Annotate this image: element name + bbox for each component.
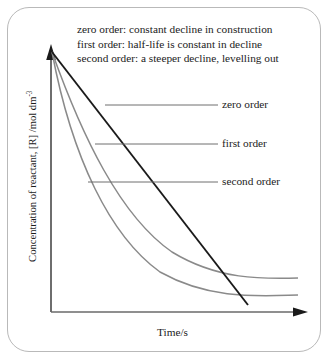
x-axis-arrow-icon xyxy=(293,307,308,316)
y-axis-label: Concentration of reactant, [R] /mol dm-3 xyxy=(26,76,39,276)
annotation-block: zero order: constant decline in construc… xyxy=(77,22,317,66)
x-axis-label: Time/s xyxy=(157,326,188,338)
annotation-second-order: second order: a steeper decline, levelli… xyxy=(77,51,317,66)
series-line-zero-order xyxy=(52,52,248,305)
y-axis-label-text: Concentration of reactant, [R] /mol dm xyxy=(27,97,38,262)
series-curve-second-order xyxy=(52,52,298,296)
legend-label-first-order: first order xyxy=(222,137,267,149)
series-curve-first-order xyxy=(52,52,298,278)
annotation-first-order: first order: half-life is constant in de… xyxy=(77,37,317,52)
annotation-zero-order: zero order: constant decline in construc… xyxy=(77,22,317,37)
y-axis-label-exponent: -3 xyxy=(26,91,34,97)
legend-label-zero-order: zero order xyxy=(222,98,268,110)
chart-figure: zero order: constant decline in construc… xyxy=(0,0,332,364)
legend-label-second-order: second order xyxy=(222,175,280,187)
